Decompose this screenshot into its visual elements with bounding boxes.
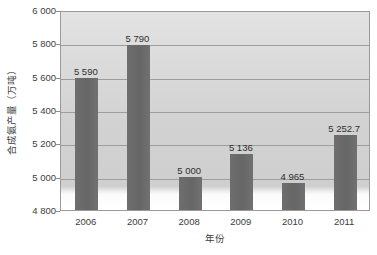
bar-value-label: 5 790	[112, 33, 164, 44]
y-axis-tick-label: 5 800	[16, 39, 56, 49]
x-axis-tick-label: 2009	[215, 216, 267, 228]
bar	[334, 135, 357, 210]
gridline	[61, 79, 369, 80]
x-axis-tick-label: 2006	[60, 216, 112, 228]
plot-background	[61, 12, 369, 210]
bar-value-label: 5 590	[60, 66, 112, 77]
y-axis-tick-mark	[56, 78, 60, 79]
y-axis-tick-labels: 6 000 5 800 5 600 5 400 5 200 5 000 4 80…	[16, 0, 56, 215]
gridline	[61, 179, 369, 180]
bar-value-label: 4 965	[267, 171, 319, 182]
gridline	[61, 45, 369, 46]
bar-value-label: 5 136	[215, 142, 267, 153]
bar-value-label: 5 252.7	[318, 123, 370, 134]
y-axis-tick-mark	[56, 44, 60, 45]
gridline	[61, 112, 369, 113]
y-axis-tick-mark	[56, 11, 60, 12]
y-axis-tick-label: 6 000	[16, 6, 56, 16]
x-axis-tick-label: 2011	[318, 216, 370, 228]
bar	[282, 183, 305, 211]
y-axis-tick-mark	[56, 111, 60, 112]
y-axis-tick-mark	[56, 211, 60, 212]
y-axis-tick-mark	[56, 144, 60, 145]
x-axis-tick-label: 2008	[163, 216, 215, 228]
bar	[75, 78, 98, 210]
y-axis-tick-label: 5 000	[16, 173, 56, 183]
x-axis-tick-label: 2010	[267, 216, 319, 228]
x-axis-title: 年份	[60, 233, 370, 245]
bar-value-label: 5 000	[163, 165, 215, 176]
x-axis-tick-labels: 2006 2007 2008 2009 2010 2011	[60, 216, 370, 230]
y-axis-tick-mark	[56, 178, 60, 179]
y-axis-tick-label: 5 400	[16, 106, 56, 116]
bar	[179, 177, 202, 210]
y-axis-tick-label: 4 800	[16, 206, 56, 216]
x-axis-tick-label: 2007	[112, 216, 164, 228]
y-axis-tick-label: 5 200	[16, 139, 56, 149]
bar	[127, 45, 150, 210]
plot-area	[60, 11, 370, 211]
y-axis-tick-label: 5 600	[16, 73, 56, 83]
bar-chart: 合成氨产量（万吨） 6 000 5 800 5 600 5 400 5 200 …	[0, 0, 377, 255]
bar	[230, 154, 253, 210]
